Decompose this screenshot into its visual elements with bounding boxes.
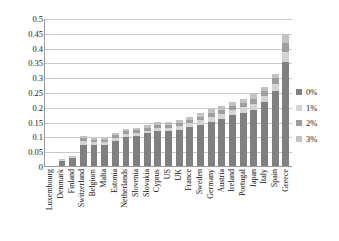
- stacked-bar[interactable]: [123, 129, 130, 166]
- stacked-bar[interactable]: [176, 120, 183, 166]
- x-label-slot: Finland: [66, 169, 77, 239]
- bar-slot: [142, 19, 153, 166]
- bar-slot: [280, 19, 291, 166]
- stacked-bar[interactable]: [59, 159, 66, 166]
- x-axis-tick-label: Italy: [260, 169, 268, 184]
- stacked-bar[interactable]: [197, 113, 204, 166]
- stacked-bar[interactable]: [80, 136, 87, 166]
- bar-segment[interactable]: [112, 141, 119, 166]
- stacked-bar[interactable]: [208, 109, 215, 166]
- stacked-bar[interactable]: [91, 138, 98, 166]
- bar-segment[interactable]: [272, 91, 279, 166]
- bar-segment[interactable]: [282, 43, 289, 52]
- bar-segment[interactable]: [91, 145, 98, 166]
- bar-segment[interactable]: [144, 133, 151, 166]
- bar-slot: [110, 19, 121, 166]
- bar-segment[interactable]: [165, 131, 172, 166]
- bar-slot: [99, 19, 110, 166]
- bar-segment[interactable]: [176, 130, 183, 166]
- bar-segment[interactable]: [282, 34, 289, 43]
- bar-slot: [248, 19, 259, 166]
- stacked-bar[interactable]: [144, 125, 151, 166]
- stacked-bar[interactable]: [101, 138, 108, 166]
- x-label-slot: Ireland: [227, 169, 238, 239]
- x-axis-tick-label: Sweden: [196, 169, 204, 194]
- bar-segment[interactable]: [208, 122, 215, 166]
- stacked-bar-chart: 0.50.450.40.350.30.250.20.150.10.050 Lux…: [0, 0, 339, 241]
- x-axis-tick-label: Austria: [218, 169, 226, 193]
- y-axis-tick-label: 0.2: [3, 104, 43, 113]
- stacked-bar[interactable]: [261, 87, 268, 166]
- x-label-slot: Denmark: [56, 169, 67, 239]
- bar-segment[interactable]: [69, 158, 76, 166]
- x-axis-tick-label: Netherlands: [121, 169, 129, 208]
- x-axis-tick-label: Greece: [282, 169, 290, 192]
- bar-segment[interactable]: [59, 161, 66, 166]
- bar-slot: [270, 19, 281, 166]
- bar-segment[interactable]: [282, 52, 289, 62]
- x-axis-tick-label: Slovenia: [132, 169, 140, 197]
- x-axis-tick-label: Estonia: [111, 169, 119, 193]
- y-axis-tick-label: 0.4: [3, 44, 43, 53]
- x-label-slot: Italy: [259, 169, 270, 239]
- legend-item[interactable]: 0%: [296, 88, 317, 97]
- x-label-slot: Malta: [99, 169, 110, 239]
- x-label-slot: Cyprus: [152, 169, 163, 239]
- bar-slot: [238, 19, 249, 166]
- bar-segment[interactable]: [133, 136, 140, 166]
- bar-segment[interactable]: [240, 113, 247, 166]
- bar-segment[interactable]: [229, 115, 236, 166]
- x-axis-tick-label: Portugal: [239, 169, 247, 196]
- bar-segment[interactable]: [123, 137, 130, 166]
- x-axis-tick-label: Finland: [68, 169, 76, 193]
- stacked-bar[interactable]: [282, 34, 289, 166]
- bar-segment[interactable]: [261, 102, 268, 166]
- bar-segment[interactable]: [154, 131, 161, 166]
- legend-item[interactable]: 1%: [296, 104, 317, 113]
- x-axis-tick-label: Belgium: [89, 169, 97, 197]
- legend-item[interactable]: 3%: [296, 135, 317, 144]
- legend-label: 3%: [306, 135, 317, 144]
- x-label-slot: Estonia: [109, 169, 120, 239]
- bar-segment[interactable]: [197, 125, 204, 166]
- bar-segment[interactable]: [101, 145, 108, 166]
- x-label-slot: Spain: [270, 169, 281, 239]
- y-axis-tick-label: 0.3: [3, 74, 43, 83]
- bar-segment[interactable]: [80, 145, 87, 166]
- x-axis-tick-label: Japan: [250, 169, 258, 187]
- stacked-bar[interactable]: [112, 133, 119, 166]
- x-label-slot: Germany: [206, 169, 217, 239]
- legend-item[interactable]: 2%: [296, 119, 317, 128]
- stacked-bar[interactable]: [69, 156, 76, 166]
- bar-segment[interactable]: [186, 127, 193, 166]
- bar-segment[interactable]: [250, 110, 257, 166]
- bar-segment[interactable]: [282, 62, 289, 166]
- y-axis-tick-label: 0: [3, 163, 43, 172]
- bar-slot: [217, 19, 228, 166]
- stacked-bar[interactable]: [154, 122, 161, 166]
- stacked-bar[interactable]: [272, 74, 279, 166]
- bar-slot: [174, 19, 185, 166]
- bar-slot: [57, 19, 68, 166]
- stacked-bar[interactable]: [165, 122, 172, 166]
- bar-segment[interactable]: [218, 119, 225, 166]
- x-axis-tick-label: Cyprus: [153, 169, 161, 192]
- bar-slot: [153, 19, 164, 166]
- bar-slot: [227, 19, 238, 166]
- x-label-slot: Greece: [280, 169, 291, 239]
- bar-slot: [78, 19, 89, 166]
- legend-label: 0%: [306, 88, 317, 97]
- stacked-bar[interactable]: [133, 128, 140, 166]
- x-label-slot: US: [163, 169, 174, 239]
- x-label-slot: Portugal: [238, 169, 249, 239]
- y-axis-tick-label: 0.45: [3, 30, 43, 39]
- stacked-bar[interactable]: [240, 99, 247, 166]
- stacked-bar[interactable]: [186, 117, 193, 166]
- x-axis-tick-label: UK: [175, 169, 183, 181]
- stacked-bar[interactable]: [229, 102, 236, 166]
- legend-swatch-icon: [296, 120, 302, 126]
- stacked-bar[interactable]: [218, 106, 225, 166]
- x-axis-tick-label: Germany: [207, 169, 215, 199]
- x-label-slot: Belgium: [88, 169, 99, 239]
- stacked-bar[interactable]: [250, 94, 257, 166]
